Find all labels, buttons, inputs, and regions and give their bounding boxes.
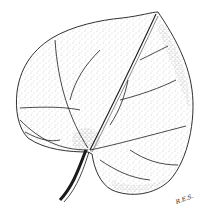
leaf-illustration	[0, 0, 204, 215]
petiole	[60, 150, 86, 200]
